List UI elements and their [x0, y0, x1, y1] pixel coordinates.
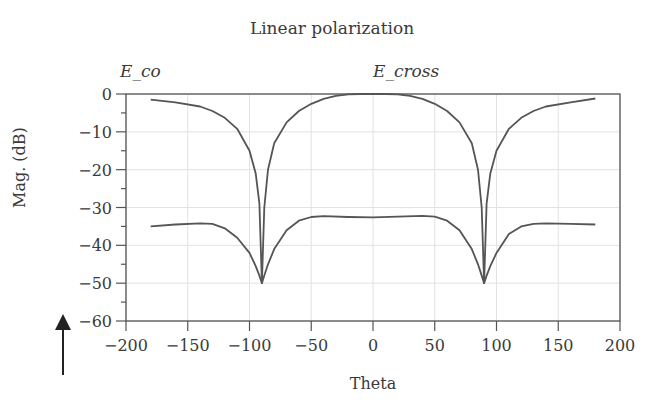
- x-tick-label: 200: [605, 336, 636, 355]
- x-tick-label: −50: [294, 336, 328, 355]
- y-tick-label: −60: [78, 312, 112, 331]
- x-tick-label: −100: [228, 336, 272, 355]
- up-arrow-icon: [55, 314, 71, 375]
- x-tick-label: 100: [481, 336, 512, 355]
- y-tick-label: −20: [78, 161, 112, 180]
- y-tick-label: −10: [78, 123, 112, 142]
- grid-lines: [126, 94, 620, 321]
- y-tick-label: 0: [102, 85, 112, 104]
- tick-labels: 0−10−20−30−40−50−60−200−150−100−50050100…: [78, 85, 635, 355]
- y-tick-label: −30: [78, 199, 112, 218]
- x-tick-label: −150: [166, 336, 210, 355]
- axes: [116, 94, 620, 331]
- x-tick-label: 0: [368, 336, 378, 355]
- x-tick-label: 50: [425, 336, 445, 355]
- x-tick-label: −200: [104, 336, 148, 355]
- y-tick-label: −50: [78, 274, 112, 293]
- line-chart: 0−10−20−30−40−50−60−200−150−100−50050100…: [0, 0, 664, 412]
- x-tick-label: 150: [543, 336, 574, 355]
- y-tick-label: −40: [78, 236, 112, 255]
